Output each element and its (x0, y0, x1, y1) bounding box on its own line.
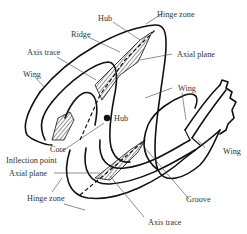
label-wing-right: Wing (223, 147, 241, 156)
label-hub-top: Hub (98, 14, 112, 23)
label-inflection-point: Inflection point (6, 156, 57, 165)
axis-trace-line-lower (80, 140, 145, 195)
label-hinge-zone-bottom: Hinge zone (27, 194, 65, 203)
label-axial-plane-left: Axial plane (9, 169, 47, 178)
label-axis-trace-bottom: Axis trace (148, 218, 182, 227)
label-groove: Groove (186, 195, 211, 204)
hinge-hatch-lower (95, 140, 145, 180)
hub-dot (104, 115, 110, 121)
label-ridge: Ridge (71, 30, 91, 39)
label-hinge-zone-top: Hinge zone (157, 10, 195, 19)
label-hub-center: Hub (114, 114, 128, 123)
core-hatch (52, 112, 74, 140)
fold-diagram: Hub Hinge zone Ridge Axial plane Axis tr… (0, 0, 247, 234)
label-axis-trace-top: Axis trace (27, 48, 61, 57)
label-wing-left: Wing (23, 70, 41, 79)
label-core: Core (50, 145, 66, 154)
label-axial-plane-right: Axial plane (177, 50, 215, 59)
label-wing-middle: Wing (178, 84, 196, 93)
